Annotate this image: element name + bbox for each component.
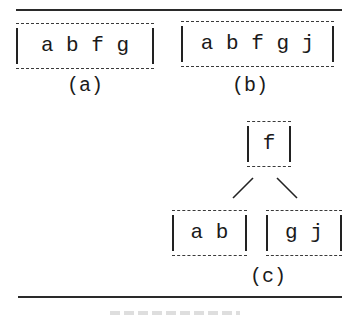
node-root-f: f (247, 121, 291, 167)
node-child-left: a b (172, 210, 247, 256)
node-child-right: g j (266, 210, 342, 256)
edge-right (277, 178, 297, 198)
node-keys: a b f g (41, 35, 129, 56)
node-keys: f (263, 133, 276, 154)
top-rule (16, 9, 342, 11)
bottom-rule (18, 296, 342, 298)
edge-left (233, 178, 253, 198)
node-keys: a b (191, 222, 229, 243)
panel-label-c: (c) (238, 267, 298, 287)
cropped-caption-fragment (110, 311, 240, 315)
node-keys: g j (285, 222, 323, 243)
node-panel-b: a b f g j (181, 21, 334, 67)
node-panel-a: a b f g (16, 23, 154, 69)
node-keys: a b f g j (201, 33, 314, 54)
panel-label-b: (b) (220, 76, 280, 96)
panel-label-a: (a) (55, 76, 115, 96)
